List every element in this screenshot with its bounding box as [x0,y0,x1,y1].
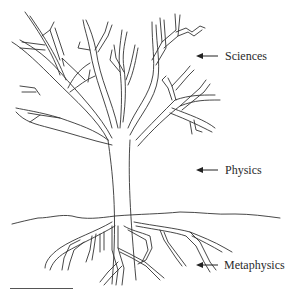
tree-illustration [0,0,291,293]
left-arrow-icon [196,261,220,269]
left-arrow-icon [196,52,220,60]
tree-roots [45,222,232,285]
tree-branches [12,12,220,146]
label-sciences: Sciences [225,49,267,63]
label-physics: Physics [225,163,262,177]
ground-line [12,212,280,224]
left-arrow-icon [196,166,220,174]
label-metaphysics: Metaphysics [224,258,285,272]
footnote-rule [10,288,73,289]
